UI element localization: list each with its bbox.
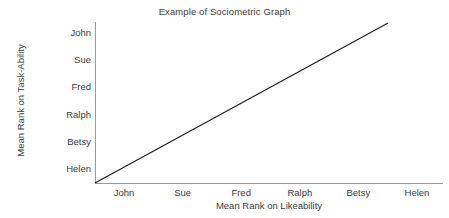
x-tick-label: Helen: [382, 187, 449, 198]
trend-line: [95, 23, 388, 183]
y-tick-labels: JohnSueFredRalphBetsyHelen: [42, 0, 91, 218]
x-tick-labels: JohnSueFredRalphBetsyHelen: [0, 187, 449, 201]
y-tick-label: John: [45, 27, 91, 38]
y-tick-label: Betsy: [45, 135, 91, 146]
sociometric-graph-figure: Example of Sociometric Graph JohnSueFred…: [0, 0, 449, 218]
y-axis-title: Mean Rank on Task-Ability: [15, 11, 26, 191]
y-tick-label: Ralph: [45, 108, 91, 119]
y-tick-label: Sue: [45, 54, 91, 65]
y-tick-label: Helen: [45, 163, 91, 174]
x-axis-title: Mean Rank on Likeability: [95, 200, 443, 211]
y-tick-label: Fred: [45, 81, 91, 92]
